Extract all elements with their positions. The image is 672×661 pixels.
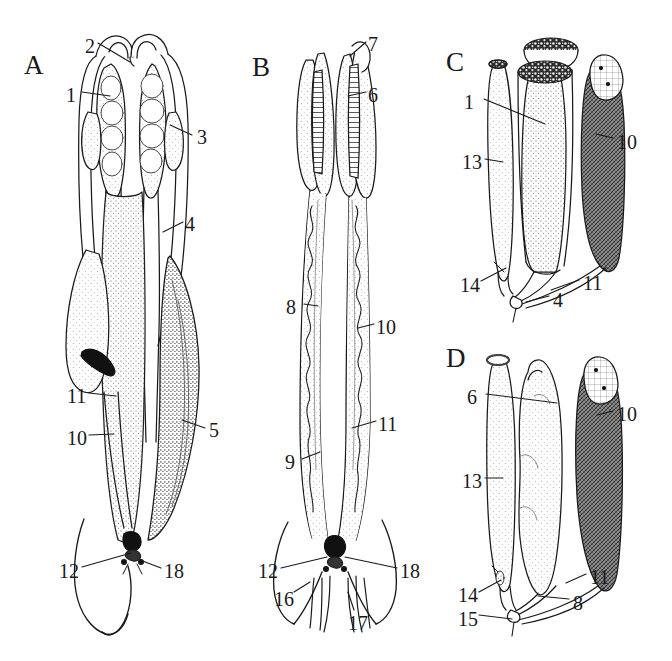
callout-d-8: 8 xyxy=(573,593,583,613)
callout-b-17: 17 xyxy=(348,613,368,633)
callout-b-10: 10 xyxy=(376,317,396,337)
callout-d-6: 6 xyxy=(467,387,477,407)
figure-plate: A B C D 2 1 3 4 11 10 5 12 18 7 6 8 10 1… xyxy=(0,0,672,661)
callout-c-11: 11 xyxy=(583,273,602,293)
panel-letter-c: C xyxy=(446,49,464,76)
callout-c-10: 10 xyxy=(617,132,637,152)
panel-letter-d: D xyxy=(446,345,466,372)
callout-c-14: 14 xyxy=(460,275,480,295)
callout-b-18: 18 xyxy=(400,561,420,581)
callout-b-6: 6 xyxy=(368,85,378,105)
callout-b-8: 8 xyxy=(286,297,296,317)
callout-b-12: 12 xyxy=(258,561,278,581)
panel-letter-a: A xyxy=(24,52,44,79)
callout-a-2: 2 xyxy=(85,36,95,56)
callout-a-3: 3 xyxy=(197,127,207,147)
callout-d-14: 14 xyxy=(458,585,478,605)
callout-b-9: 9 xyxy=(285,452,295,472)
callout-d-11: 11 xyxy=(590,567,609,587)
callout-a-11: 11 xyxy=(67,386,86,406)
callout-c-13: 13 xyxy=(462,152,482,172)
figure-artwork xyxy=(0,0,672,661)
callout-d-15: 15 xyxy=(458,609,478,629)
callout-a-10: 10 xyxy=(67,428,87,448)
callout-b-11: 11 xyxy=(378,414,397,434)
callout-c-4: 4 xyxy=(553,290,563,310)
callout-b-16: 16 xyxy=(274,589,294,609)
callout-d-13: 13 xyxy=(462,471,482,491)
callout-d-10: 10 xyxy=(617,404,637,424)
callout-a-18: 18 xyxy=(164,561,184,581)
callout-c-1: 1 xyxy=(464,92,474,112)
callout-a-5: 5 xyxy=(209,420,219,440)
panel-letter-b: B xyxy=(252,54,270,81)
panel-c-artwork xyxy=(488,38,625,322)
callout-a-12: 12 xyxy=(59,561,79,581)
callout-b-7: 7 xyxy=(368,34,378,54)
callout-a-1: 1 xyxy=(66,85,76,105)
callout-a-4: 4 xyxy=(185,214,195,234)
panel-a-artwork xyxy=(66,34,199,635)
